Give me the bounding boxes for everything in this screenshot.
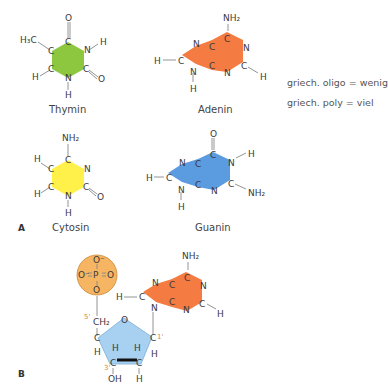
nucleotide-nh2: NH₂: [182, 251, 200, 261]
adenin-molecule: NH₂ C N C H N C C N C H N H Adenin: [154, 13, 267, 115]
nucleotide-n3: N: [183, 305, 190, 315]
adenin-n7: N: [193, 39, 200, 49]
panel-a-label: A: [18, 223, 25, 233]
nucleotide-n1: N: [200, 281, 207, 291]
sugar-oh: OH: [108, 374, 122, 384]
adenin-c6: C: [224, 34, 230, 44]
sugar-c3: C: [110, 358, 116, 368]
adenin-label: Adenin: [198, 104, 233, 115]
cytosin-label: Cytosin: [52, 222, 89, 233]
adenin-n9: N: [190, 67, 197, 77]
thymin-c-bottom-left: C: [48, 64, 54, 74]
cytosin-molecule: NH₂ C N C O N H C H C H Cytosin: [34, 133, 104, 233]
adenin-nh2: NH₂: [223, 13, 241, 23]
phosphate-o-top: O⁻: [93, 255, 105, 265]
guanin-c2: C: [228, 179, 234, 189]
guanin-label: Guanin: [195, 222, 231, 233]
sugar-h1: H: [151, 349, 158, 359]
cytosin-c5: C: [48, 164, 54, 174]
cytosin-n3: N: [84, 164, 91, 174]
sugar-ring-o: O: [121, 315, 128, 325]
adenin-n1: N: [243, 43, 250, 53]
sugar-c4: C: [94, 333, 100, 343]
phosphate-o-left: O⁻: [78, 270, 90, 280]
nucleotide-n9: N: [151, 303, 158, 313]
cytosin-h1: H: [65, 208, 72, 218]
guanin-c5: C: [195, 159, 201, 169]
nucleotide: O⁻ O⁻ P O O 5' CH₂ O C H C 1' H H H C C …: [77, 251, 224, 384]
guanin-c4: C: [195, 180, 201, 190]
cytosin-h6: H: [34, 189, 41, 199]
adenin-h2: H: [260, 72, 267, 82]
phosphate-o-bottom: O: [93, 285, 100, 295]
thymin-n-right: N: [84, 45, 91, 55]
adenin-c2: C: [241, 61, 247, 71]
thymin-methyl: H₃C: [20, 35, 37, 45]
thymin-c-left: C: [48, 46, 54, 56]
thymin-c-top: C: [65, 37, 71, 47]
phosphate-o-right: O: [107, 270, 114, 280]
thymin-h-n: H: [100, 37, 107, 47]
position-1-prime: 1': [157, 333, 163, 341]
nucleotide-h2: H: [217, 309, 224, 319]
cytosin-nh2: NH₂: [62, 133, 80, 143]
thymin-h-bottom: H: [65, 90, 72, 100]
adenin-c5: C: [209, 42, 215, 52]
guanin-n3: N: [211, 186, 218, 196]
nucleotide-c4: C: [169, 297, 175, 307]
thymin-h-c: H: [32, 72, 39, 82]
adenin-c8: C: [178, 56, 184, 66]
thymin-o-top: O: [65, 13, 72, 23]
phosphate-p: P: [93, 270, 99, 280]
position-3-prime: 3': [104, 364, 110, 372]
guanin-n1: N: [228, 158, 235, 168]
sugar-h4: H: [94, 347, 101, 357]
cytosin-c4: C: [65, 155, 71, 165]
adenin-h8: H: [154, 56, 161, 66]
guanin-c6: C: [210, 150, 216, 160]
thymin-label: Thymin: [48, 104, 86, 115]
cytosin-o2: O: [97, 192, 104, 202]
guanin-nh2: NH₂: [248, 188, 266, 198]
nucleotide-c8: C: [139, 292, 145, 302]
guanin-h1: H: [248, 149, 255, 159]
guanin-h8: H: [146, 173, 153, 183]
sugar-h3-up: H: [112, 343, 119, 353]
nucleotide-c5: C: [169, 280, 175, 290]
note-oligo: griech. oligo = wenig: [287, 77, 388, 88]
position-5-prime: 5': [84, 313, 90, 321]
guanin-o6: O: [210, 129, 217, 139]
thymin-o-right: O: [98, 74, 105, 84]
adenin-h9: H: [190, 84, 197, 94]
adenin-c4: C: [209, 61, 215, 71]
thymin-n-bottom: N: [65, 73, 72, 83]
guanin-h9: H: [178, 202, 185, 212]
guanin-n7: N: [179, 158, 186, 168]
nucleotide-c6: C: [184, 273, 190, 283]
sugar-c2: C: [136, 358, 142, 368]
nucleobase-diagram: O H₃C C N H C C C O H N H Thymin NH₂ C N…: [0, 0, 388, 392]
panel-b-label: B: [18, 369, 25, 379]
nucleotide-h8: H: [116, 292, 123, 302]
guanin-c8: C: [166, 173, 172, 183]
cytosin-c6: C: [48, 182, 54, 192]
nucleotide-c2: C: [199, 299, 205, 309]
note-poly: griech. poly = viel: [287, 97, 374, 108]
cytosin-h5: H: [34, 154, 41, 164]
sugar-ch2: CH₂: [93, 317, 110, 327]
thymin-molecule: O H₃C C N H C C C O H N H Thymin: [20, 13, 107, 115]
sugar-h2-down: H: [136, 374, 143, 384]
nucleotide-n7: N: [152, 278, 159, 288]
sugar-c1: C: [150, 333, 156, 343]
adenin-n3: N: [224, 68, 231, 78]
guanin-molecule: O C N H C NH₂ N C C N C H N H Guanin: [146, 129, 266, 233]
cytosin-c2: C: [83, 182, 89, 192]
guanin-n9: N: [178, 185, 185, 195]
sugar-h2-up: H: [134, 343, 141, 353]
thymin-c-bottom-right: C: [83, 64, 89, 74]
cytosin-n1: N: [65, 191, 72, 201]
